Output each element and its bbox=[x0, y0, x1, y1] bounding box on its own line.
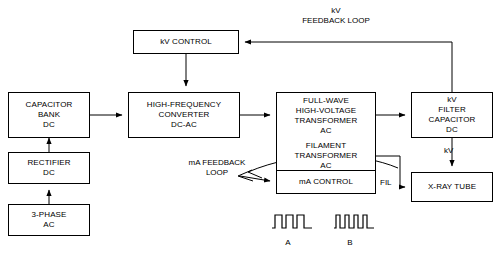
ma-feedback-loop-text: mA FEEDBACK LOOP bbox=[189, 158, 246, 177]
kv-control-box: kV CONTROL bbox=[133, 30, 239, 54]
ma-control-box: mA CONTROL bbox=[276, 170, 376, 194]
hv-transformer-line-2: HIGH-VOLTAGE bbox=[296, 106, 356, 116]
kv-feedback-loop-text-1: kV FEEDBACK LOOP bbox=[302, 6, 370, 25]
ma-control-line-1: mA CONTROL bbox=[299, 177, 353, 187]
capacitor-bank-dc-line-2: BANK bbox=[38, 110, 60, 120]
kv-filter-capacitor-line-2: FILTER bbox=[438, 105, 466, 115]
filament-transformer-line-2: TRANSFORMER bbox=[295, 151, 358, 161]
three-phase-ac-line-2: AC bbox=[43, 220, 54, 230]
waveform-b-label: B bbox=[340, 238, 360, 248]
kv-wire-label: kV bbox=[444, 146, 464, 156]
high-voltage-transformer-box: FULL-WAVE HIGH-VOLTAGE TRANSFORMER AC bbox=[276, 92, 376, 138]
capacitor-bank-dc-line-3: DC bbox=[43, 120, 55, 130]
rectifier-dc-line-1: RECTIFIER bbox=[27, 158, 70, 168]
filament-transformer-box: FILAMENT TRANSFORMER AC bbox=[276, 138, 376, 174]
waveform-b-text: B bbox=[347, 238, 352, 247]
ma-feedback-loop-label: mA FEEDBACK LOOP bbox=[172, 158, 262, 178]
fil-wire-label: FIL bbox=[380, 178, 402, 188]
waveform-a bbox=[272, 212, 316, 230]
three-phase-ac-line-1: 3-PHASE bbox=[32, 210, 67, 220]
kv-filter-capacitor-line-3: CAPACITOR bbox=[429, 115, 476, 125]
hf-converter-line-2: CONVERTER bbox=[159, 110, 210, 120]
capacitor-bank-dc-line-1: CAPACITOR bbox=[26, 100, 73, 110]
diagram-canvas: CAPACITOR BANK DC RECTIFIER DC 3-PHASE A… bbox=[0, 0, 501, 261]
rectifier-dc-box: RECTIFIER DC bbox=[8, 152, 90, 184]
kv-wire-text: kV bbox=[444, 146, 453, 155]
hv-transformer-line-4: AC bbox=[320, 126, 331, 136]
kv-filter-capacitor-line-1: kV bbox=[447, 95, 457, 105]
waveform-a-text: A bbox=[285, 238, 290, 247]
x-ray-tube-line-1: X-RAY TUBE bbox=[428, 182, 476, 192]
hf-converter-line-3: DC-AC bbox=[171, 120, 197, 130]
kv-filter-capacitor-box: kV FILTER CAPACITOR DC bbox=[411, 92, 493, 138]
filament-transformer-line-3: AC bbox=[320, 161, 331, 171]
filament-transformer-line-1: FILAMENT bbox=[306, 141, 346, 151]
three-phase-ac-box: 3-PHASE AC bbox=[8, 204, 90, 236]
capacitor-bank-dc-box: CAPACITOR BANK DC bbox=[8, 92, 90, 138]
high-frequency-converter-box: HIGH-FREQUENCY CONVERTER DC-AC bbox=[128, 92, 240, 138]
kv-feedback-loop-label: kV FEEDBACK LOOP bbox=[276, 6, 396, 26]
kv-control-line-1: kV CONTROL bbox=[160, 37, 212, 47]
waveform-b bbox=[334, 212, 378, 230]
kv-filter-capacitor-line-4: DC bbox=[446, 125, 458, 135]
hv-transformer-line-3: TRANSFORMER bbox=[295, 116, 358, 126]
hv-transformer-line-1: FULL-WAVE bbox=[303, 96, 349, 106]
waveform-a-label: A bbox=[278, 238, 298, 248]
hf-converter-line-1: HIGH-FREQUENCY bbox=[147, 100, 221, 110]
rectifier-dc-line-2: DC bbox=[43, 168, 55, 178]
fil-wire-text: FIL bbox=[380, 178, 392, 187]
x-ray-tube-box: X-RAY TUBE bbox=[411, 172, 493, 202]
